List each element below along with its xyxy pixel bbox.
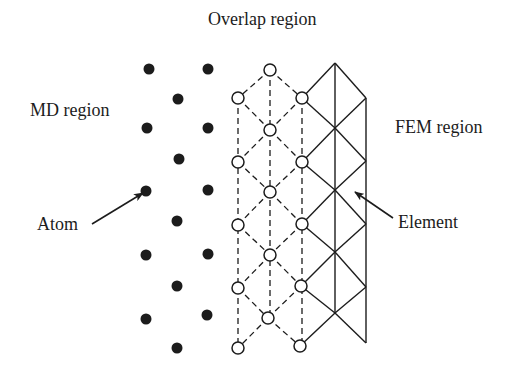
overlap-node <box>232 92 244 104</box>
atom-dot <box>172 281 183 292</box>
dashed-diagonal <box>270 130 302 162</box>
dashed-diagonal <box>268 286 301 318</box>
atom-dot <box>141 186 152 197</box>
fem-edge <box>335 98 366 128</box>
overlap-node <box>295 280 307 292</box>
atom-label: Atom <box>37 215 78 233</box>
atom-dot <box>172 216 183 227</box>
overlap-node <box>296 156 308 168</box>
fem-edge <box>302 190 335 224</box>
fem-edge <box>302 128 335 162</box>
fem-mesh <box>300 63 366 346</box>
md-region-label: MD region <box>30 101 110 119</box>
overlap-node <box>296 92 308 104</box>
element-arrow <box>355 192 393 218</box>
overlap-node <box>264 249 276 261</box>
fem-edge <box>302 63 335 98</box>
md-atoms <box>141 64 214 354</box>
atom-dot <box>203 64 214 75</box>
atom-dot <box>141 314 152 325</box>
overlap-node <box>264 186 276 198</box>
dashed-diagonal <box>238 98 270 130</box>
atom-dot <box>173 94 184 105</box>
dashed-diagonal <box>238 130 270 162</box>
fem-edge <box>335 190 366 224</box>
fem-edge <box>335 224 366 252</box>
atom-dot <box>174 154 185 165</box>
fem-edge <box>335 128 366 161</box>
overlap-node <box>296 218 308 230</box>
dashed-diagonal <box>238 192 270 225</box>
overlap-node <box>294 340 306 352</box>
dashed-diagonal <box>238 255 270 288</box>
atom-dot <box>144 64 155 75</box>
fem-edge <box>335 287 366 313</box>
atom-dot <box>172 343 183 354</box>
atom-dot <box>202 310 213 321</box>
fem-edge <box>335 252 366 287</box>
fem-edge <box>300 313 335 346</box>
overlap-dashed-lattice <box>238 70 302 348</box>
fem-region-label: FEM region <box>395 118 483 136</box>
overlap-node <box>264 124 276 136</box>
overlap-region-label: Overlap region <box>208 10 316 28</box>
fem-edge <box>335 161 366 190</box>
fem-edge <box>335 313 366 343</box>
atom-dot <box>142 123 153 134</box>
dashed-diagonal <box>270 192 302 224</box>
diagram-graphic <box>0 0 517 376</box>
atom-arrow <box>92 193 143 224</box>
md-fem-coupling-diagram: Overlap region MD region FEM region Atom… <box>0 0 517 376</box>
atom-dot <box>203 185 214 196</box>
overlap-node <box>232 156 244 168</box>
overlap-node <box>232 342 244 354</box>
dashed-diagonal <box>270 98 302 130</box>
overlap-node <box>264 64 276 76</box>
atom-dot <box>203 249 214 260</box>
label-arrows <box>92 192 393 224</box>
atom-dot <box>141 250 152 261</box>
fem-edge <box>335 63 366 98</box>
atom-dot <box>203 123 214 134</box>
overlap-node <box>262 312 274 324</box>
overlap-node <box>232 282 244 294</box>
element-label: Element <box>398 213 458 231</box>
overlap-node <box>232 219 244 231</box>
fem-edge <box>301 252 335 286</box>
